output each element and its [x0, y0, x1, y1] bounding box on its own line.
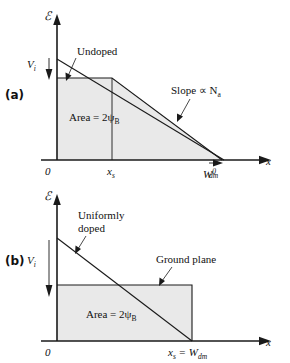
- panel-a-area-subscript: B: [114, 117, 119, 126]
- panel-a-undoped-label: Undoped: [77, 45, 118, 57]
- panel-a-slope-text: Slope ∝ N: [171, 84, 218, 96]
- panel-a-tick-wdm: W0dm: [203, 167, 219, 180]
- panel-a: ℰ x Vi Undoped Slo: [5, 9, 271, 180]
- panel-a-y-axis-arrowhead: [53, 14, 61, 25]
- panel-a-voltage-label: Vi: [27, 58, 36, 73]
- svg-text:Vi: Vi: [27, 254, 36, 269]
- panel-b: ℰ x Vi Uniformly doped Ground plane: [5, 189, 271, 361]
- panel-a-slope-leader-arrow: [177, 114, 183, 123]
- panel-b-tick-xs-wdm: xs = Wdm: [167, 346, 208, 361]
- panel-b-tick-equals-w: = W: [176, 346, 199, 358]
- panel-b-uniformly-doped-label-line1: Uniformly: [78, 209, 125, 221]
- panel-a-slope-leader: [180, 99, 190, 117]
- panel-a-tick-wdm-subscript: dm: [209, 171, 219, 180]
- panel-b-ground-plane-leader: [162, 267, 172, 281]
- panel-b-uniformly-doped-label-line2: doped: [78, 222, 105, 234]
- panel-b-tick-origin: 0: [45, 346, 51, 358]
- panel-a-slope-label: Slope ∝ Na: [171, 84, 222, 99]
- panel-a-area-text: Area = 2ψ: [69, 111, 115, 123]
- panel-b-ground-plane-label: Ground plane: [156, 253, 216, 265]
- panel-a-vi-arrow-head: [46, 69, 53, 80]
- panel-a-y-axis-label: ℰ: [44, 9, 53, 23]
- panel-b-tick-wdm-subscript: dm: [198, 352, 208, 361]
- panel-b-y-axis-label: ℰ: [44, 189, 53, 203]
- panel-b-area-subscript: B: [131, 314, 136, 323]
- panel-b-uniformly-doped-leader-arrow: [75, 246, 81, 255]
- panel-a-voltage-subscript: i: [34, 64, 36, 73]
- panel-a-label: (a): [5, 88, 24, 102]
- panel-b-voltage-subscript: i: [34, 260, 36, 269]
- panel-b-y-axis-arrowhead: [53, 194, 61, 205]
- panel-a-tick-origin: 0: [45, 165, 51, 177]
- panel-b-uniformly-doped-leader: [78, 236, 86, 249]
- panel-b-label: (b): [5, 254, 25, 268]
- panel-a-tick-xs-subscript: s: [112, 171, 115, 180]
- panel-a-slope-subscript: a: [218, 90, 222, 99]
- panel-b-voltage-label: Vi: [27, 254, 36, 269]
- panel-b-vi-arrow-head: [46, 285, 53, 297]
- svg-text:Vi: Vi: [27, 58, 36, 73]
- panel-a-x-axis-label: x: [265, 155, 271, 167]
- panel-b-area-text: Area = 2ψ: [86, 308, 132, 320]
- panel-a-tick-xs: xs: [106, 165, 115, 180]
- panel-b-x-axis-label: x: [265, 336, 271, 348]
- field-distribution-figure: ℰ x Vi Undoped Slo: [0, 0, 290, 363]
- figure-container: ℰ x Vi Undoped Slo: [0, 0, 290, 363]
